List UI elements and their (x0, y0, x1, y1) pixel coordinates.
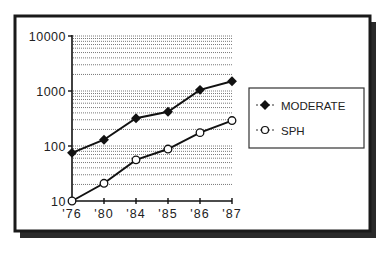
data-point (132, 156, 140, 164)
legend-box (249, 88, 364, 148)
data-point (68, 197, 76, 205)
x-tick-label: '76 (62, 207, 81, 221)
legend-label-sph: SPH (281, 125, 305, 137)
line-chart: 10100100010000'76'80'84'85'86'87 MODERAT… (0, 0, 386, 253)
y-tick-label: 1000 (36, 85, 66, 99)
x-tick-label: '80 (94, 207, 113, 221)
y-tick-label: 10000 (29, 30, 66, 44)
x-tick-label: '84 (126, 207, 145, 221)
x-tick-label: '87 (222, 207, 241, 221)
x-tick-label: '86 (190, 207, 209, 221)
x-tick-label: '85 (158, 207, 177, 221)
chart-container: 10100100010000'76'80'84'85'86'87 MODERAT… (0, 0, 386, 253)
data-point (196, 129, 204, 137)
legend: MODERATE SPH (249, 88, 364, 148)
legend-label-moderate: MODERATE (281, 100, 346, 112)
open-circle-icon (262, 127, 269, 134)
data-point (228, 117, 236, 125)
data-point (164, 145, 172, 153)
data-point (100, 179, 108, 187)
y-tick-label: 100 (44, 140, 66, 154)
